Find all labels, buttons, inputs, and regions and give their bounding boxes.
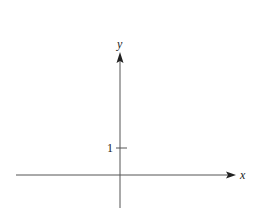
coordinate-plane: x y 1: [0, 0, 256, 220]
y-tick-label-1: 1: [107, 141, 113, 155]
x-axis-label: x: [239, 168, 246, 182]
y-axis-label: y: [116, 37, 123, 51]
